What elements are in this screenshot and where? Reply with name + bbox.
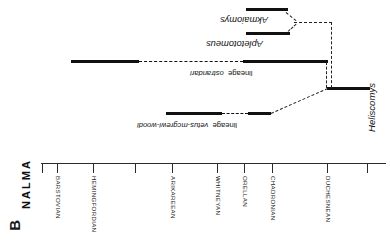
lineage-species: ostrandari	[190, 69, 224, 78]
range-bar-ostrandari-left	[71, 60, 139, 63]
axis-tick-label: BARSTOVIAN	[53, 176, 64, 246]
axis-tick	[172, 163, 173, 173]
taxon-label-ostrandari-lineage: lineage ostrandari	[190, 68, 298, 78]
connector-node-horizontal	[294, 22, 332, 23]
connector-heliscomys-to-vetus	[271, 88, 328, 114]
axis-tick-label: ARIKAREEAN	[168, 176, 179, 246]
axis-tick	[217, 163, 218, 173]
axis-tick	[244, 163, 245, 173]
range-bar-vetus-right	[248, 112, 271, 115]
axis-tick-label: CHADRONIAN	[268, 176, 279, 246]
cladogram-area: Akmaiomys Apletotomeus lineage ostrandar…	[0, 0, 390, 160]
range-bar-ostrandari-right	[243, 60, 328, 63]
axis-tick	[367, 163, 368, 173]
axis-tick-label: ORELLAN	[240, 176, 251, 246]
range-dash-vetus	[222, 113, 248, 114]
connector-trunk-vertical	[331, 22, 332, 88]
axis-tick	[135, 163, 136, 173]
axis-tick-label: DUCHESNEAN	[323, 176, 334, 246]
axis-tick	[42, 163, 43, 173]
range-bar-heliscomys	[327, 87, 370, 90]
range-bar-apletotomeus	[246, 32, 290, 35]
axis-title-nalma: NALMA	[18, 149, 34, 219]
taxon-label-akmaiomys: Akmaiomys	[220, 14, 290, 26]
taxon-label-apletotomeus: Apletotomeus	[206, 38, 290, 50]
phylogenetic-range-chart: B Akmaiomys	[0, 0, 390, 246]
range-dash-ostrandari	[139, 61, 243, 62]
lineage-word: lineage	[213, 121, 238, 130]
connector-heliscomys-to-ostrandari	[326, 62, 327, 88]
taxon-label-heliscomys: Heliscomys	[366, 83, 378, 132]
lineage-species: vetus-mcgrewi-woodi	[137, 121, 208, 130]
axis-tick	[93, 163, 94, 173]
lineage-word: lineage	[228, 69, 253, 78]
axis-tick-label: WHITNEYAN	[213, 176, 224, 246]
range-bar-vetus-left	[166, 112, 222, 115]
axis-tick	[272, 163, 273, 173]
range-bar-akmaiomys	[246, 8, 288, 11]
axis-tick	[327, 163, 328, 173]
taxon-label-vetus-lineage: lineage vetus-mcgrewi-woodi	[137, 120, 285, 130]
axis-tick-label: HEMINGFORDIAN	[89, 176, 100, 246]
axis-tick	[57, 163, 58, 173]
